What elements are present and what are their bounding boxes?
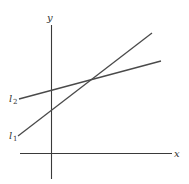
line-l2-label-main: l (9, 93, 12, 104)
line-l2-label: l 2 (9, 93, 17, 106)
x-axis-label: x (174, 148, 180, 159)
line-l2-label-sub: 2 (13, 98, 17, 106)
two-lines-diagram: y x l 2 l 1 (0, 0, 189, 184)
line-l1-label: l 1 (9, 130, 17, 143)
y-axis-label: y (46, 12, 53, 23)
line-l1-label-main: l (9, 130, 12, 141)
line-l1 (18, 33, 152, 136)
line-l1-label-sub: 1 (13, 135, 17, 143)
